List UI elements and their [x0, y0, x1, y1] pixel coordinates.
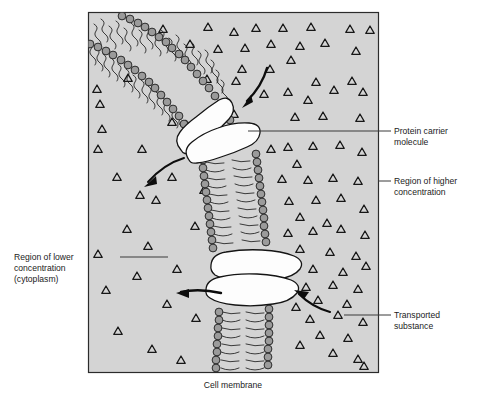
- label-higher-concentration-line2: concentration: [394, 187, 446, 197]
- label-protein-carrier-line1: Protein carrier: [394, 126, 448, 136]
- label-lower-concentration-line2: concentration: [14, 263, 66, 273]
- label-protein-carrier-line2: molecule: [394, 137, 429, 147]
- label-lower-concentration-line3: (cytoplasm): [14, 274, 59, 284]
- caption-cell-membrane: Cell membrane: [204, 380, 262, 390]
- label-lower-concentration-line1: Region of lower: [14, 252, 74, 262]
- cell-membrane-diagram: Protein carrier molecule Region of highe…: [0, 0, 479, 402]
- protein-carrier-lower: [206, 250, 302, 306]
- carrier-lobe-lower-lower: [206, 274, 299, 306]
- label-higher-concentration-line1: Region of higher: [394, 176, 457, 186]
- label-transported-substance-line1: Transported: [394, 310, 440, 320]
- label-transported-substance-line2: substance: [394, 321, 433, 331]
